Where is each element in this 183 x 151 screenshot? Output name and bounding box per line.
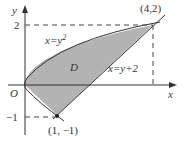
point-1-neg1 <box>55 114 59 118</box>
y-axis-label: y <box>11 4 17 16</box>
line-label: x=y+2 <box>107 62 139 74</box>
origin-label: O <box>10 87 18 99</box>
tick-y-2: 2 <box>14 19 20 31</box>
y-axis-arrow-icon <box>22 5 28 13</box>
parabola-label: x=y2 <box>44 33 66 46</box>
region-diagram: y x O 2 −1 x=y2 x=y+2 D (4,2) (1, −1) <box>0 0 183 151</box>
tick-y-neg1: −1 <box>6 111 18 123</box>
point-label-4-2: (4,2) <box>140 2 161 15</box>
x-axis-label: x <box>167 88 173 100</box>
point-label-1-neg1: (1, −1) <box>48 124 78 137</box>
region-label: D <box>69 61 78 73</box>
